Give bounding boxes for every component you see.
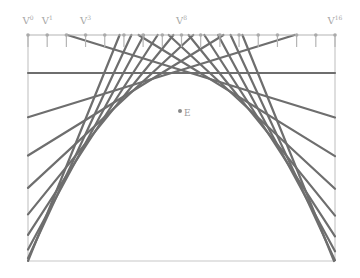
tick-dot — [314, 33, 318, 37]
tick-dot — [65, 33, 69, 37]
axis-label: V3 — [80, 14, 91, 26]
tick-dot — [84, 33, 88, 37]
tick-dot — [141, 33, 145, 37]
tangent-line — [67, 35, 335, 118]
axis-label: V8 — [176, 14, 187, 26]
tick-dot — [333, 33, 337, 37]
tick-dot — [295, 33, 299, 37]
tick-dot — [45, 33, 49, 37]
point-label: E — [184, 108, 191, 118]
tangent-line — [204, 35, 335, 236]
axis-label: V16 — [328, 14, 343, 26]
tangent-lines — [28, 35, 335, 261]
tick-dot — [26, 33, 30, 37]
tick-dot — [180, 33, 184, 37]
tick-dot — [276, 33, 280, 37]
tick-dot — [103, 33, 107, 37]
parabola-envelope-diagram — [0, 0, 360, 278]
tick-dot — [237, 33, 241, 37]
tick-dot — [256, 33, 260, 37]
tick-dot — [218, 33, 222, 37]
center-point — [178, 109, 182, 113]
axis-label: V0 — [22, 14, 33, 26]
axis-label: V1 — [42, 14, 53, 26]
point-marker — [178, 109, 182, 113]
tick-dot — [161, 33, 165, 37]
tick-dot — [199, 33, 203, 37]
top-axis — [26, 33, 337, 47]
tick-dot — [122, 33, 126, 37]
